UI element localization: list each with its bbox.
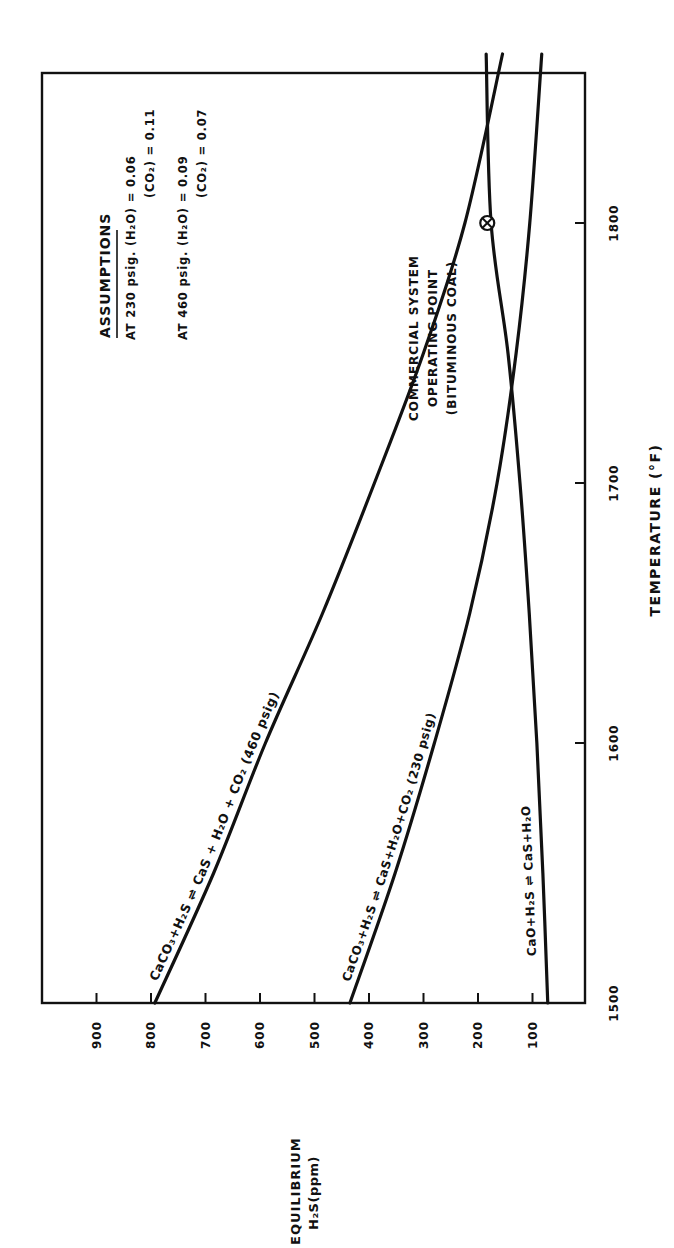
assumption-230-co2: (CO₂) = 0.11 [143, 109, 157, 198]
equilibrium-h2s-chart: 100200300400500600700800900 150016001700… [0, 0, 674, 1248]
temp-tick-label: 1500 [607, 984, 621, 1021]
curve-cao [486, 54, 548, 1003]
temp-tick-label: 1800 [607, 204, 621, 241]
ppm-tick-label: 500 [308, 1021, 322, 1049]
temp-tick-label: 1600 [607, 724, 621, 761]
ppm-tick-label: 300 [417, 1021, 431, 1049]
operating-point-label-2: OPERATING POINT [426, 269, 440, 407]
curve-labels: CaCO₃+H₂S ⇌ CaS + H₂O + CO₂ (460 psig)Ca… [146, 689, 539, 984]
x-axis-title: TEMPERATURE (°F) [647, 444, 663, 617]
temp-tick-label: 1700 [607, 464, 621, 501]
assumptions-heading: ASSUMPTIONS [97, 213, 113, 338]
ppm-tick-label: 100 [526, 1021, 540, 1049]
y-axis-title-line1: EQUILIBRIUM [288, 1137, 303, 1245]
operating-point-label-1: COMMERCIAL SYSTEM [407, 255, 421, 421]
y-axis-title-line2: H₂S(ppm) [306, 1156, 321, 1230]
ppm-tick-label: 700 [199, 1021, 213, 1049]
ppm-tick-label: 900 [90, 1021, 104, 1049]
curve-230-psig-label: CaCO₃+H₂S ⇌ CaS+H₂O+CO₂ (230 psig) [339, 711, 438, 984]
assumption-230-h2o: AT 230 psig. (H₂O) = 0.06 [124, 156, 138, 340]
operating-point-label-3: (BITUMINOUS COAL) [445, 261, 459, 415]
assumption-460-co2: (CO₂) = 0.07 [195, 109, 209, 198]
ppm-tick-label: 800 [144, 1021, 158, 1049]
assumption-460-h2o: AT 460 psig. (H₂O) = 0.09 [176, 156, 190, 340]
operating-point-marker [480, 216, 494, 230]
curve-230-psig [350, 54, 542, 1003]
ppm-tick-label: 600 [253, 1021, 267, 1049]
chart-page: 100200300400500600700800900 150016001700… [0, 0, 674, 1248]
curve-460-psig-label: CaCO₃+H₂S ⇌ CaS + H₂O + CO₂ (460 psig) [146, 689, 282, 983]
curve-cao-label: CaO+H₂S ⇌ CaS+H₂O [519, 805, 539, 956]
ppm-tick-label: 400 [362, 1021, 376, 1049]
temperature-axis-ticks: 1500160017001800 [575, 204, 621, 1021]
ppm-tick-label: 200 [471, 1021, 485, 1049]
